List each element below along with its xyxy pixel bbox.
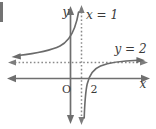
curve-left-branch-arrow-icon [12, 53, 22, 59]
curve-left-branch [12, 12, 79, 59]
horizontal-asymptote-label: y = 2 [114, 42, 147, 56]
curve-left-branch-path [18, 12, 79, 56]
y-axis [67, 6, 74, 124]
vertical-asymptote-x-equals-1 [78, 5, 84, 125]
x-axis [7, 75, 150, 82]
x-tick-label-2: 2 [91, 83, 98, 96]
horizontal-asymptote-arrow-left-icon [8, 60, 16, 66]
x-axis-label: x [140, 77, 147, 91]
x-axis-arrow-left-icon [7, 75, 16, 82]
y-axis-label: y [62, 5, 70, 19]
page-edge-artifact [0, 2, 3, 22]
figure-canvas: y x O 2 x = 1 y = 2 [0, 0, 156, 129]
origin-label: O [62, 83, 71, 96]
vertical-asymptote-label: x = 1 [86, 8, 118, 22]
y-axis-arrow-down-icon [67, 115, 74, 124]
hyperbola-graph: y x O 2 x = 1 y = 2 [0, 0, 156, 129]
